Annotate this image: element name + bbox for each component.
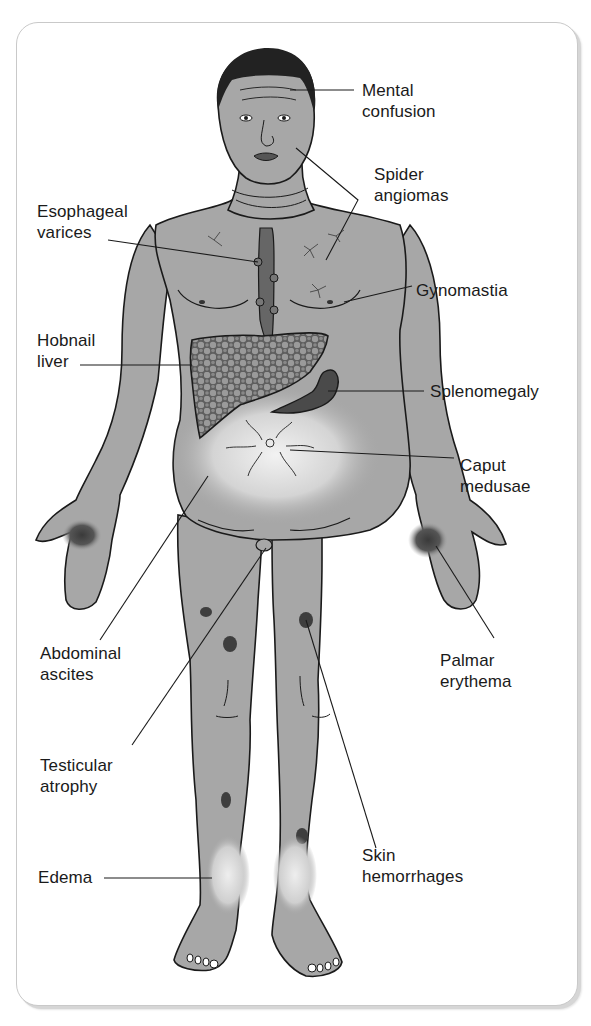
label-caput-medusae: Caput medusae <box>460 455 531 497</box>
esophagus <box>259 228 275 340</box>
label-spider-angiomas: Spider angiomas <box>374 164 449 206</box>
label-edema: Edema <box>38 867 92 888</box>
palmar-erythema-right <box>408 522 448 558</box>
label-palmar-erythema: Palmar erythema <box>440 650 512 692</box>
label-gynomastia: Gynomastia <box>416 280 508 301</box>
label-abdominal-ascites: Abdominal ascites <box>40 643 121 685</box>
label-splenomegaly: Splenomegaly <box>430 381 539 402</box>
testes <box>256 539 272 551</box>
head <box>217 48 315 184</box>
edema-left <box>206 835 250 915</box>
edema-right <box>273 835 317 915</box>
label-testicular-atrophy: Testicular atrophy <box>40 755 113 797</box>
label-mental-confusion: Mental confusion <box>362 80 436 122</box>
label-esophageal-varices: Esophageal varices <box>37 201 128 243</box>
label-skin-hemorrhages: Skin hemorrhages <box>362 845 463 887</box>
legs <box>174 515 342 976</box>
palmar-erythema-left <box>62 519 102 551</box>
label-hobnail-liver: Hobnail liver <box>37 330 95 372</box>
